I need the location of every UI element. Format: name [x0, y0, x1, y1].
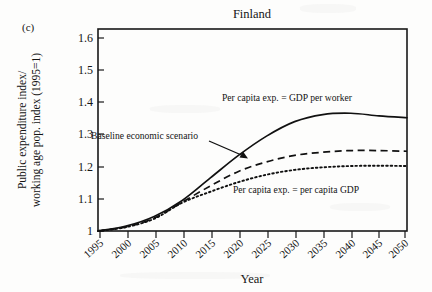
- x-tick-label: 2010: [165, 236, 190, 260]
- chart-title: Finland: [233, 7, 272, 21]
- x-tick-label: 2030: [277, 236, 302, 260]
- x-tick-label: 2000: [109, 236, 134, 260]
- y-tick-label: 1.6: [78, 31, 93, 45]
- annotation-per-capita-gdp-label: Per capita exp. = per capita GDP: [233, 184, 359, 195]
- y-tick-label: 1: [87, 224, 93, 238]
- y-axis-title-line1: Public expenditure index/: [16, 70, 29, 189]
- x-tick-label: 2025: [249, 236, 274, 260]
- x-tick-label: 1995: [81, 236, 106, 260]
- y-axis-title: Public expenditure index/ working age po…: [16, 53, 43, 208]
- x-tick-label: 2040: [333, 236, 358, 260]
- annotation-baseline-arrow: [209, 141, 248, 159]
- x-tick-label: 2005: [137, 236, 162, 260]
- annotation-gdp-per-worker-label: Per capita exp. = GDP per worker: [222, 92, 353, 103]
- x-tick-label: 2050: [386, 236, 411, 260]
- y-tick-label: 1.4: [78, 95, 93, 109]
- x-tick-label: 2015: [193, 236, 218, 260]
- panel-label: (c): [22, 21, 35, 34]
- y-tick-label: 1.1: [78, 192, 93, 206]
- x-tick-label: 2045: [360, 236, 385, 260]
- y-tick-label: 1.5: [78, 63, 93, 77]
- x-tick-label: 2020: [221, 236, 246, 260]
- x-axis-title: Year: [240, 272, 264, 286]
- x-tick-label: 2035: [305, 236, 330, 260]
- y-axis-title-line2: working age pop. index (1995=1): [30, 53, 43, 208]
- y-tick-label: 1.2: [78, 160, 93, 174]
- line-chart: (c) Finland Public expenditure index/ wo…: [0, 0, 432, 292]
- x-axis-ticks: 1995 2000 2005 2010 2015 2020 2025 2030 …: [81, 231, 411, 260]
- figure-panel: (c) Finland Public expenditure index/ wo…: [0, 0, 432, 292]
- annotation-baseline-label: Baseline economic scenario: [91, 130, 198, 141]
